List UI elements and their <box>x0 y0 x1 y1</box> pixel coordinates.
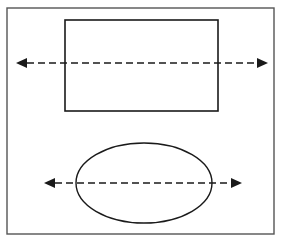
caption-fragment <box>4 235 124 242</box>
outer-border-rect <box>7 8 274 234</box>
figure-container <box>0 0 283 243</box>
rectangle-axis-left-arrowhead <box>16 58 27 68</box>
ellipse-axis-left-arrowhead <box>44 178 55 188</box>
rectangle-shape <box>65 20 218 111</box>
ellipse-axis-right-arrowhead <box>231 178 242 188</box>
rectangle-axis-group <box>16 58 268 68</box>
symmetry-diagram <box>0 0 283 243</box>
rectangle-axis-right-arrowhead <box>257 58 268 68</box>
